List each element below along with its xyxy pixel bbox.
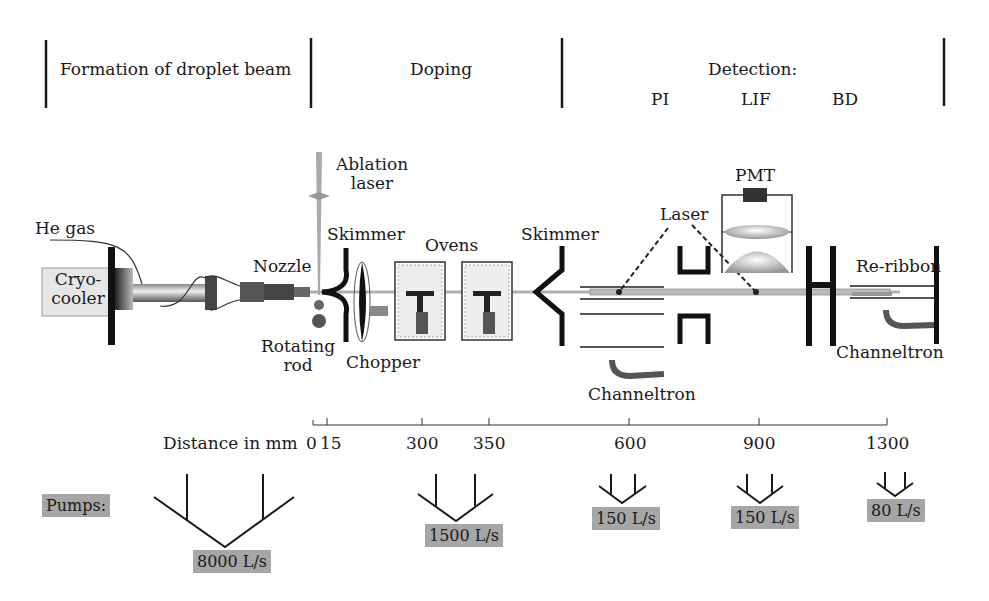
label-channeltron-2: Channeltron xyxy=(836,343,944,362)
oven-2 xyxy=(462,262,512,340)
pump-speed-4: 150 L/s xyxy=(731,506,799,529)
pump-speed-2: 1500 L/s xyxy=(425,524,503,547)
pump-speed-5: 80 L/s xyxy=(867,499,925,522)
tick-350: 350 xyxy=(473,434,505,453)
label-nozzle: Nozzle xyxy=(253,257,312,276)
tick-300: 300 xyxy=(406,434,438,453)
detection-pi: PI xyxy=(651,90,669,109)
pump-speed-3: 150 L/s xyxy=(592,507,660,530)
label-ovens: Ovens xyxy=(425,236,478,255)
label-cryocooler: Cryo- cooler xyxy=(48,270,108,307)
oven-1 xyxy=(395,262,445,340)
label-channeltron-1: Channeltron xyxy=(588,385,696,404)
label-re-ribbon: Re-ribbon xyxy=(856,257,941,276)
label-skimmer-2: Skimmer xyxy=(521,225,599,244)
label-rotating-rod: Rotating rod xyxy=(258,337,338,374)
pump-speed-1: 8000 L/s xyxy=(193,550,271,573)
distance-axis-label: Distance in mm xyxy=(163,434,298,453)
pmt-assembly xyxy=(722,188,792,273)
pump-symbols xyxy=(154,472,913,547)
section-formation: Formation of droplet beam xyxy=(60,60,291,79)
section-doping: Doping xyxy=(410,60,472,79)
label-ablation-laser: Ablation laser xyxy=(332,155,412,192)
distance-axis xyxy=(313,418,887,425)
pumps-label: Pumps: xyxy=(42,494,110,517)
label-he-gas: He gas xyxy=(35,219,95,238)
tick-0: 0 xyxy=(306,434,317,453)
detection-bd: BD xyxy=(832,90,858,109)
tick-600: 600 xyxy=(614,434,646,453)
section-detection: Detection: xyxy=(708,60,797,79)
detection-lif: LIF xyxy=(741,90,771,109)
tick-15: 15 xyxy=(320,434,342,453)
label-skimmer-1: Skimmer xyxy=(327,225,405,244)
label-laser: Laser xyxy=(660,205,708,224)
tick-900: 900 xyxy=(743,434,775,453)
label-chopper: Chopper xyxy=(346,353,420,372)
label-pmt: PMT xyxy=(735,166,775,185)
tick-1300: 1300 xyxy=(866,434,909,453)
